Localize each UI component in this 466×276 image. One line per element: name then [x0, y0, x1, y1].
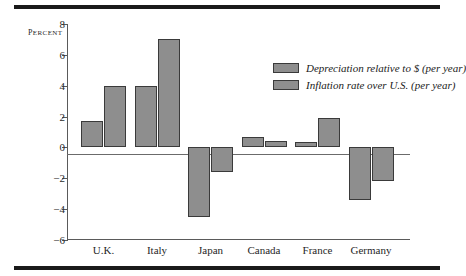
bar	[135, 86, 157, 148]
bar	[372, 147, 394, 181]
bar-group	[81, 24, 126, 240]
bar-group	[349, 24, 394, 240]
bar-group	[135, 24, 180, 240]
y-tick-label: 8	[25, 19, 65, 30]
bar-group	[188, 24, 233, 240]
y-tick-label: −2	[25, 173, 65, 184]
bottom-rule	[14, 266, 440, 270]
y-tick-label: 4	[25, 80, 65, 91]
y-tick-label: 0	[25, 142, 65, 153]
bar	[104, 86, 126, 148]
bar	[211, 147, 233, 172]
bar	[158, 39, 180, 147]
bar	[318, 118, 340, 147]
y-axis-line	[67, 24, 68, 240]
legend-label: Depreciation relative to $ (per year)	[306, 62, 466, 74]
bar	[265, 141, 287, 147]
top-rule	[14, 5, 440, 9]
legend-label: Inflation rate over U.S. (per year)	[306, 79, 455, 91]
y-tick-label: 2	[25, 111, 65, 122]
legend-item: Inflation rate over U.S. (per year)	[273, 77, 466, 92]
bar	[242, 137, 264, 148]
bar-group	[295, 24, 340, 240]
legend-swatch-icon	[273, 63, 299, 73]
category-label: Germany	[333, 244, 410, 256]
bar	[188, 147, 210, 216]
bar	[349, 147, 371, 199]
legend-swatch-icon	[273, 80, 299, 90]
y-tick-label: −6	[25, 235, 65, 246]
y-tick-label: 6	[25, 49, 65, 60]
legend-item: Depreciation relative to $ (per year)	[273, 60, 466, 75]
bar	[81, 121, 103, 147]
bar-group	[242, 24, 287, 240]
plot-area: 86420−2−4−6 U.K.ItalyJapanCanadaFranceGe…	[67, 24, 410, 240]
bar	[295, 142, 317, 147]
chart-legend: Depreciation relative to $ (per year) In…	[273, 60, 466, 94]
y-tick-label: −4	[25, 204, 65, 215]
